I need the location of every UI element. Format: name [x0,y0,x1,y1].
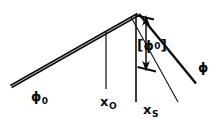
label-object-position-xo: xO [100,93,117,111]
label-measure-symbol: ϕ [143,38,153,53]
ray-geometry-diagram: ϕ0 xO xS ϕ [ϕ0] [0,0,218,124]
incident-ray-thick [11,15,138,87]
label-source-position-xs: xS [143,101,158,119]
label-phi-symbol: ϕ [198,60,208,75]
label-phi0-symbol: ϕ [31,89,41,104]
label-xo-symbol: x [100,94,108,109]
label-outgoing-ray-phi: ϕ [198,59,208,75]
label-incident-ray-phi0: ϕ0 [31,88,48,106]
incident-ray-inner-gap [11,15,138,87]
label-xs-symbol: x [143,102,151,117]
label-phi0-subscript: 0 [42,96,48,106]
label-measure-close-bracket: ] [161,37,167,53]
thin-diagonal-ray [131,17,178,102]
label-xo-subscript: O [109,101,117,111]
label-offset-measure: [ϕ0] [137,37,167,53]
label-xs-subscript: S [152,109,158,119]
